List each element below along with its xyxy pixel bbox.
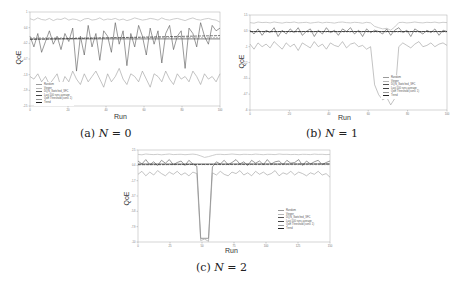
- x-tick-label: 25: [168, 244, 172, 248]
- y-axis-label-b: QoE: [238, 54, 245, 68]
- legend-label: Trend: [44, 101, 51, 105]
- y-tick-label: -10: [132, 240, 136, 244]
- legend-swatch: [383, 84, 389, 85]
- caption-a: (a) N = 0: [80, 127, 131, 140]
- legend-a: RandomViewerDQN_Switched_SFCLast 100 run…: [34, 82, 74, 106]
- x-tick-label: 40: [104, 108, 108, 112]
- x-tick-label: 80: [406, 112, 410, 116]
- series-line-viewer: [138, 154, 330, 157]
- y-tick-label: -7.9: [131, 225, 136, 229]
- legend-swatch: [278, 214, 284, 215]
- x-axis-label-c: Run: [225, 247, 238, 254]
- x-tick-label: 100: [218, 108, 223, 112]
- caption-b: (b) N = 1: [306, 127, 358, 140]
- x-tick-label: 100: [264, 244, 269, 248]
- x-tick-label: 125: [296, 244, 301, 248]
- legend-label: Trend: [286, 227, 293, 231]
- legend-swatch: [383, 77, 389, 78]
- series-line-viewer: [250, 22, 447, 30]
- y-tick-label: 0.4: [24, 26, 28, 30]
- legend-b: RandomViewerDQN_Switched_SFCLast 100 run…: [381, 75, 421, 99]
- legend-swatch: [36, 91, 42, 92]
- legend-swatch: [278, 221, 284, 222]
- legend-swatch: [36, 88, 42, 89]
- y-tick-label: 1: [26, 10, 28, 14]
- y-tick-label: -5.8: [131, 209, 136, 213]
- legend-swatch: [36, 84, 42, 85]
- y-tick-label: -1.7: [131, 179, 136, 183]
- series-line-dqn-switched-sfc: [250, 28, 447, 37]
- x-tick-label: 100: [445, 112, 450, 116]
- y-tick-label: -2.5: [23, 104, 28, 108]
- series-line-dqn-switched-sfc: [30, 23, 220, 71]
- y-tick-label: 1.5: [244, 13, 248, 17]
- legend-swatch: [36, 95, 42, 96]
- x-tick-label: 0: [249, 112, 251, 116]
- legend-swatch: [36, 99, 42, 100]
- x-tick-label: 80: [180, 108, 184, 112]
- legend-entry: Trend: [383, 94, 419, 98]
- y-tick-label: -1: [245, 45, 248, 49]
- y-tick-label: -4.7: [243, 92, 248, 96]
- legend-swatch: [383, 88, 389, 89]
- legend-entry: Trend: [36, 101, 72, 105]
- subplot-c: 0255075100125150-10-7.9-5.8-3.7-1.70.42.…: [110, 145, 350, 292]
- legend-swatch: [278, 225, 284, 226]
- y-tick-label: 0.3: [244, 29, 248, 33]
- y-axis-label-a: QoE: [15, 50, 22, 64]
- y-tick-label: -0.7: [23, 57, 28, 61]
- legend-label: Trend: [391, 94, 398, 98]
- x-axis-label-b: Run: [338, 114, 351, 121]
- subplot-b: 020406080100-6-4.7-3.5-2.2-10.31.5 QoE R…: [226, 0, 452, 145]
- series-line-viewer: [30, 18, 220, 22]
- y-tick-label: -3.7: [131, 194, 136, 198]
- legend-swatch: [383, 95, 389, 96]
- y-tick-label: 2.5: [132, 148, 136, 152]
- x-tick-label: 0: [137, 244, 139, 248]
- x-tick-label: 60: [142, 108, 146, 112]
- line-chart-b: 020406080100-6-4.7-3.5-2.2-10.31.5: [226, 0, 452, 145]
- legend-swatch: [278, 217, 284, 218]
- x-tick-label: 20: [288, 112, 292, 116]
- legend-swatch: [383, 92, 389, 93]
- subplot-a: 020406080100-2.5-1.9-1.3-0.7-0.20.41 QoE…: [0, 0, 226, 145]
- legend-swatch: [278, 228, 284, 229]
- y-axis-label-c: QoE: [123, 191, 130, 205]
- y-tick-label: -1.3: [23, 73, 28, 77]
- legend-swatch: [278, 210, 284, 211]
- x-tick-label: 50: [200, 244, 204, 248]
- x-tick-label: 40: [327, 112, 331, 116]
- caption-c: (c) N = 2: [196, 261, 247, 274]
- x-axis-label-a: Run: [114, 113, 127, 120]
- x-tick-label: 20: [66, 108, 70, 112]
- legend-swatch: [383, 81, 389, 82]
- legend-c: RandomViewerDQN_Switched_SFCLast 100 run…: [276, 208, 316, 232]
- x-tick-label: 150: [328, 244, 333, 248]
- y-tick-label: -3.5: [243, 76, 248, 80]
- y-tick-label: 0.4: [132, 163, 136, 167]
- y-tick-label: -1.9: [23, 88, 28, 92]
- y-tick-label: -0.2: [23, 41, 28, 45]
- x-tick-label: 60: [367, 112, 371, 116]
- legend-entry: Trend: [278, 227, 314, 231]
- y-tick-label: -6: [245, 108, 248, 112]
- legend-swatch: [36, 102, 42, 103]
- line-chart-a: 020406080100-2.5-1.9-1.3-0.7-0.20.41: [0, 0, 226, 145]
- x-tick-label: 0: [29, 108, 31, 112]
